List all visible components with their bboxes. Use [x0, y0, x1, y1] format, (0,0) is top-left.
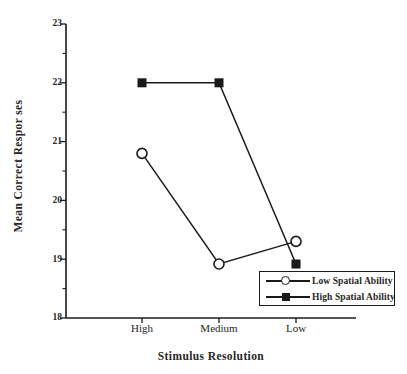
- chart-figure: Mean Correct Respor ses Stimulus Resolut…: [0, 0, 407, 374]
- data-point-high-low: [292, 260, 301, 269]
- data-point-high-medium: [215, 78, 224, 87]
- data-point-high-high: [138, 78, 147, 87]
- plot-canvas: [0, 0, 407, 374]
- legend-label: High Spatial Ability: [312, 292, 395, 302]
- legend-item-low-spatial-ability: Low Spatial Ability: [260, 273, 394, 289]
- data-point-low-medium: [214, 259, 224, 269]
- legend-label: Low Spatial Ability: [312, 276, 393, 286]
- data-point-low-low: [291, 236, 301, 246]
- chart-legend: Low Spatial Ability High Spatial Ability: [259, 271, 395, 306]
- legend-key-open-circle-icon: [264, 274, 312, 288]
- legend-key-filled-square-icon: [264, 290, 312, 304]
- series-line-high-spatial-ability: [142, 83, 296, 264]
- data-point-low-high: [137, 148, 147, 158]
- series-low-spatial-ability: [137, 148, 301, 269]
- legend-item-high-spatial-ability: High Spatial Ability: [260, 289, 394, 305]
- series-high-spatial-ability: [138, 78, 301, 268]
